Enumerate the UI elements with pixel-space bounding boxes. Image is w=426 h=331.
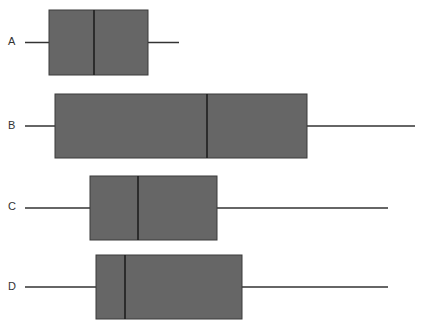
category-label-a: A	[8, 35, 20, 47]
iqr-box	[55, 94, 307, 158]
iqr-box	[90, 176, 217, 240]
category-label-b: B	[8, 119, 20, 131]
box-b	[25, 94, 415, 158]
box-a	[25, 10, 179, 75]
box-d	[25, 255, 388, 319]
category-label-c: C	[8, 200, 20, 212]
category-label-d: D	[8, 280, 20, 292]
iqr-box	[49, 10, 148, 75]
box-plot-chart	[0, 0, 426, 331]
box-c	[25, 176, 388, 240]
iqr-box	[96, 255, 242, 319]
